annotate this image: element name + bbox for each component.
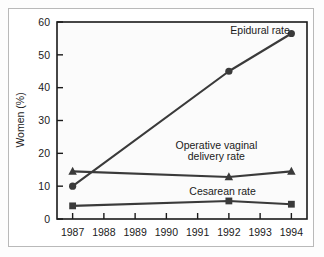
- y-tick-label: 30: [38, 114, 50, 126]
- y-axis-tick-labels: 0102030405060: [38, 16, 50, 225]
- x-tick-label: 1993: [248, 226, 272, 238]
- data-point-marker: [225, 198, 232, 205]
- x-tick-label: 1991: [186, 226, 210, 238]
- y-tick-label: 0: [44, 213, 50, 225]
- y-tick-label: 20: [38, 147, 50, 159]
- line-chart: 0102030405060 19871988198919901991199219…: [0, 0, 324, 257]
- series-annotation-label: Cesarean rate: [189, 185, 256, 197]
- data-point-marker: [69, 183, 76, 190]
- plot-area-background: [57, 22, 307, 219]
- y-tick-label: 10: [38, 180, 50, 192]
- x-axis-tick-labels: 19871988198919901991199219931994: [61, 226, 303, 238]
- x-tick-label: 1989: [123, 226, 147, 238]
- y-tick-label: 60: [38, 16, 50, 28]
- y-axis-title: Women (%): [14, 92, 26, 147]
- series-annotation-label: Epidural rate: [230, 24, 290, 36]
- figure-container: 0102030405060 19871988198919901991199219…: [0, 0, 324, 257]
- x-tick-label: 1988: [92, 226, 116, 238]
- x-tick-label: 1987: [61, 226, 85, 238]
- y-tick-label: 40: [38, 81, 50, 93]
- x-tick-label: 1994: [280, 226, 304, 238]
- x-tick-label: 1990: [155, 226, 179, 238]
- y-tick-label: 50: [38, 49, 50, 61]
- data-point-marker: [288, 201, 295, 208]
- series-annotation-label: Operative vaginal: [176, 139, 258, 151]
- series-annotation-label: delivery rate: [188, 150, 245, 162]
- data-point-marker: [69, 202, 76, 209]
- x-tick-label: 1992: [217, 226, 241, 238]
- data-point-marker: [225, 68, 232, 75]
